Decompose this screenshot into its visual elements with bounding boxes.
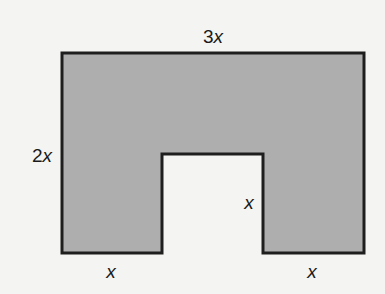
label-bottom-left-width: x <box>105 261 117 282</box>
label-notch-height: x <box>243 192 255 213</box>
u-shape-region <box>62 53 364 253</box>
u-shape-diagram: 3x 2x x x x <box>0 0 385 294</box>
label-top-width: 3x <box>203 26 225 47</box>
label-left-height: 2x <box>32 145 54 166</box>
label-bottom-right-width: x <box>306 261 318 282</box>
